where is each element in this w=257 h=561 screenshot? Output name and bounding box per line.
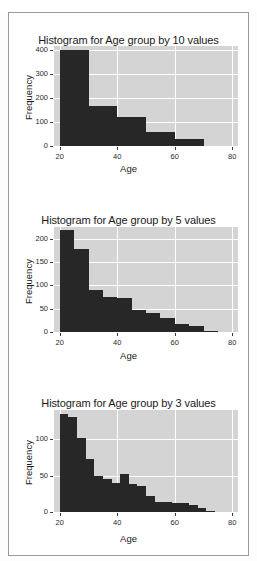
histogram-bar — [206, 511, 215, 512]
x-axis-tick-label: 80 — [222, 338, 242, 347]
y-axis-tick-mark — [50, 98, 53, 99]
y-axis-tick-mark — [50, 74, 53, 75]
y-axis-tick-mark — [50, 146, 53, 147]
x-axis-tick-mark — [117, 333, 118, 336]
histogram-bar — [120, 474, 129, 512]
histogram-bar — [175, 139, 204, 146]
histogram-bar — [137, 486, 146, 512]
plot-area — [54, 227, 238, 332]
histogram-figure-10: Histogram for Age group by 10 values Fre… — [9, 13, 248, 187]
histogram-bar — [160, 318, 174, 332]
histogram-bar — [189, 505, 198, 512]
chart-title: Histogram for Age group by 3 values — [9, 397, 248, 409]
y-axis-tick-label: 0 — [26, 327, 48, 336]
histogram-bar — [204, 331, 218, 332]
histogram-bar — [103, 297, 117, 332]
x-axis-tick-mark — [60, 147, 61, 150]
histogram-bar — [60, 50, 89, 146]
y-axis-tick-mark — [50, 512, 53, 513]
y-axis-tick-mark — [50, 122, 53, 123]
histogram-figure-3: Histogram for Age group by 3 values Freq… — [9, 373, 248, 555]
y-axis-tick-label: 400 — [26, 45, 48, 54]
y-axis-tick-label: 50 — [26, 304, 48, 313]
x-axis-label: Age — [9, 350, 248, 361]
plot-area — [54, 410, 238, 512]
grid-line-vertical — [175, 46, 176, 146]
grid-line-vertical — [175, 410, 176, 512]
y-axis-tick-label: 300 — [26, 69, 48, 78]
grid-line-vertical — [232, 46, 233, 146]
charts-panel: Histogram for Age group by 10 values Fre… — [8, 12, 249, 556]
y-axis-tick-label: 50 — [26, 471, 48, 480]
x-axis-tick-mark — [60, 513, 61, 516]
clipped-header-text: · · · · · · — [0, 0, 257, 11]
plot-area — [54, 46, 238, 146]
histogram-bar — [172, 503, 181, 512]
histogram-bar — [132, 310, 146, 332]
y-axis-tick-mark — [50, 476, 53, 477]
histogram-bar — [198, 508, 207, 512]
y-axis-tick-mark — [50, 285, 53, 286]
histogram-bar — [163, 502, 172, 512]
y-axis-tick-label: 0 — [26, 141, 48, 150]
histogram-bar — [60, 414, 69, 512]
clipped-header-label: · · · · · · — [0, 0, 257, 2]
y-axis-tick-label: 150 — [26, 257, 48, 266]
histogram-bar — [181, 503, 190, 512]
x-axis-tick-mark — [117, 513, 118, 516]
histogram-bar — [68, 417, 77, 512]
y-axis-tick-label: 100 — [26, 280, 48, 289]
screenshot-root: · · · · · · Histogram for Age group by 1… — [0, 0, 257, 561]
x-axis-tick-label: 20 — [50, 338, 70, 347]
histogram-bar — [146, 132, 175, 146]
histogram-bar — [146, 496, 155, 512]
histogram-bar — [77, 438, 86, 512]
y-axis-tick-label: 200 — [26, 234, 48, 243]
y-axis-tick-mark — [50, 50, 53, 51]
x-axis-tick-mark — [232, 147, 233, 150]
histogram-bar — [89, 290, 103, 332]
histogram-bar — [74, 249, 88, 332]
histogram-bar — [94, 476, 103, 512]
histogram-bar — [146, 313, 160, 332]
y-axis-tick-label: 100 — [26, 434, 48, 443]
x-axis-tick-mark — [232, 513, 233, 516]
histogram-bar — [175, 324, 189, 332]
y-axis-tick-label: 100 — [26, 117, 48, 126]
x-axis-tick-mark — [175, 147, 176, 150]
y-axis-tick-mark — [50, 262, 53, 263]
histogram-bar — [60, 230, 74, 332]
x-axis-tick-label: 20 — [50, 152, 70, 161]
histogram-bar — [89, 106, 118, 146]
histogram-bar — [155, 502, 164, 512]
x-axis-tick-mark — [60, 333, 61, 336]
x-axis-tick-label: 60 — [165, 152, 185, 161]
y-axis-tick-mark — [50, 309, 53, 310]
grid-line-vertical — [175, 227, 176, 332]
x-axis-tick-label: 40 — [107, 518, 127, 527]
histogram-bar — [129, 484, 138, 512]
x-axis-label: Age — [9, 533, 248, 544]
x-axis-tick-label: 40 — [107, 152, 127, 161]
x-axis-tick-label: 20 — [50, 518, 70, 527]
grid-line-horizontal — [54, 239, 238, 240]
y-axis-tick-mark — [50, 239, 53, 240]
histogram-bar — [86, 459, 95, 512]
y-axis-tick-label: 0 — [26, 507, 48, 516]
histogram-figure-5: Histogram for Age group by 5 values Freq… — [9, 187, 248, 373]
x-axis-tick-mark — [232, 333, 233, 336]
x-axis-tick-label: 80 — [222, 152, 242, 161]
x-axis-tick-label: 60 — [165, 338, 185, 347]
x-axis-tick-label: 40 — [107, 338, 127, 347]
histogram-bar — [112, 483, 121, 512]
y-axis-tick-label: 200 — [26, 93, 48, 102]
y-axis-tick-mark — [50, 332, 53, 333]
y-axis-tick-mark — [50, 439, 53, 440]
x-axis-tick-label: 80 — [222, 518, 242, 527]
histogram-bar — [117, 117, 146, 146]
histogram-bar — [117, 298, 131, 332]
histogram-bar — [103, 479, 112, 512]
grid-line-vertical — [232, 410, 233, 512]
x-axis-tick-mark — [175, 333, 176, 336]
x-axis-tick-mark — [175, 513, 176, 516]
